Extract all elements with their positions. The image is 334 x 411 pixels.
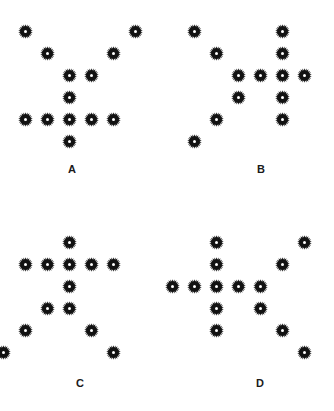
starburst-marker-icon (106, 112, 121, 127)
starburst-marker-icon (209, 235, 224, 250)
starburst-marker-icon (165, 279, 180, 294)
starburst-marker-icon (84, 68, 99, 83)
starburst-marker-icon (187, 279, 202, 294)
starburst-marker-icon (297, 235, 312, 250)
starburst-marker-icon (40, 112, 55, 127)
starburst-marker-icon (40, 301, 55, 316)
starburst-marker-icon (209, 112, 224, 127)
starburst-marker-icon (253, 68, 268, 83)
starburst-marker-icon (275, 257, 290, 272)
starburst-marker-icon (18, 24, 33, 39)
starburst-marker-icon (231, 90, 246, 105)
panel-label-c: C (65, 377, 95, 389)
starburst-marker-icon (106, 46, 121, 61)
starburst-marker-icon (297, 68, 312, 83)
starburst-marker-icon (40, 46, 55, 61)
panel-label-a: A (57, 163, 87, 175)
starburst-marker-icon (40, 257, 55, 272)
starburst-marker-icon (62, 235, 77, 250)
panel-label-b: B (246, 163, 276, 175)
starburst-marker-icon (209, 301, 224, 316)
starburst-marker-icon (275, 46, 290, 61)
starburst-marker-icon (106, 257, 121, 272)
starburst-marker-icon (253, 301, 268, 316)
starburst-marker-icon (209, 323, 224, 338)
starburst-marker-icon (275, 112, 290, 127)
starburst-marker-icon (106, 345, 121, 360)
starburst-marker-icon (275, 323, 290, 338)
starburst-marker-icon (209, 46, 224, 61)
starburst-marker-icon (209, 257, 224, 272)
starburst-marker-icon (128, 24, 143, 39)
starburst-marker-icon (231, 279, 246, 294)
starburst-marker-icon (18, 112, 33, 127)
starburst-marker-icon (62, 301, 77, 316)
starburst-marker-icon (187, 134, 202, 149)
starburst-marker-icon (0, 345, 11, 360)
starburst-marker-icon (231, 68, 246, 83)
starburst-marker-icon (62, 112, 77, 127)
starburst-marker-icon (62, 257, 77, 272)
starburst-marker-icon (275, 68, 290, 83)
starburst-marker-icon (18, 323, 33, 338)
panel-label-d: D (245, 377, 275, 389)
starburst-marker-icon (84, 323, 99, 338)
starburst-marker-icon (62, 90, 77, 105)
starburst-marker-icon (18, 257, 33, 272)
starburst-marker-icon (253, 279, 268, 294)
figure-canvas: ABCD (0, 0, 334, 411)
starburst-marker-icon (275, 90, 290, 105)
starburst-marker-icon (209, 279, 224, 294)
starburst-marker-icon (84, 257, 99, 272)
starburst-marker-icon (297, 345, 312, 360)
starburst-marker-icon (62, 279, 77, 294)
starburst-marker-icon (187, 24, 202, 39)
starburst-marker-icon (62, 134, 77, 149)
starburst-marker-icon (275, 24, 290, 39)
starburst-marker-icon (84, 112, 99, 127)
starburst-marker-icon (62, 68, 77, 83)
